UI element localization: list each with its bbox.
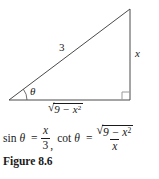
sin-function: sin [3,132,16,144]
angle-theta-label: θ [30,85,36,97]
radicand-text: 9 − x [103,126,127,138]
cot-denominator: x [110,139,119,153]
cot-function: cot [57,132,71,144]
sin-fraction: x 3 [41,124,51,151]
cot-equals: = [86,132,93,144]
triangle-outline [9,9,130,100]
textbook-figure: 3 x θ √ 9 − x2 sin θ = x 3 , cot θ = √ 9… [0,0,159,179]
radicand: 9 − x2 [102,125,133,138]
separator-comma: , [50,139,53,151]
figure-caption: Figure 8.6 [3,155,53,167]
base-radical: √ 9 − x2 [48,102,83,116]
cot-angle: θ [74,132,80,144]
base-side-label: √ 9 − x2 [48,101,83,116]
angle-arc-icon [23,89,27,100]
cot-radical: √ 9 − x2 [96,124,133,138]
opposite-side-label: x [134,47,140,59]
radicand-exponent: 2 [127,126,131,135]
trig-identities-equation: sin θ = x 3 , cot θ = √ 9 − x2 x [3,120,134,156]
radicand-exponent: 2 [78,104,82,112]
sin-angle: θ [19,132,25,144]
hypotenuse-label: 3 [59,41,65,53]
sin-equals: = [31,132,38,144]
right-angle-icon [122,92,130,100]
sin-numerator: x [42,124,49,138]
cot-fraction: √ 9 − x2 x [95,124,134,153]
sin-denominator: 3 [41,138,51,152]
radicand-text: 9 − x [54,103,77,115]
cot-numerator: √ 9 − x2 [95,124,134,139]
radicand: 9 − x2 [53,103,83,116]
